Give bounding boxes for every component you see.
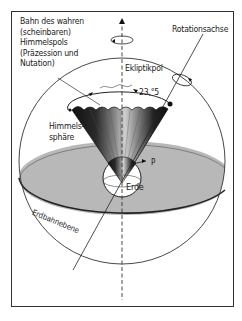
label-celestial-sphere: Himmels- sphäre: [49, 121, 84, 142]
label-ecliptic-pole: Ekliptikpol: [125, 63, 163, 74]
label-precession-path: Bahn des wahren (scheinbaren) Himmelspol…: [20, 16, 84, 69]
label-rotation-axis: Rotationsachse: [172, 24, 228, 35]
label-earth: Erde: [126, 182, 144, 193]
label-point-p: P: [151, 158, 155, 169]
celestial-sphere-diagram: Bahn des wahren (scheinbaren) Himmelspol…: [0, 0, 242, 321]
label-obliquity-angle: 23,°5: [139, 87, 159, 98]
